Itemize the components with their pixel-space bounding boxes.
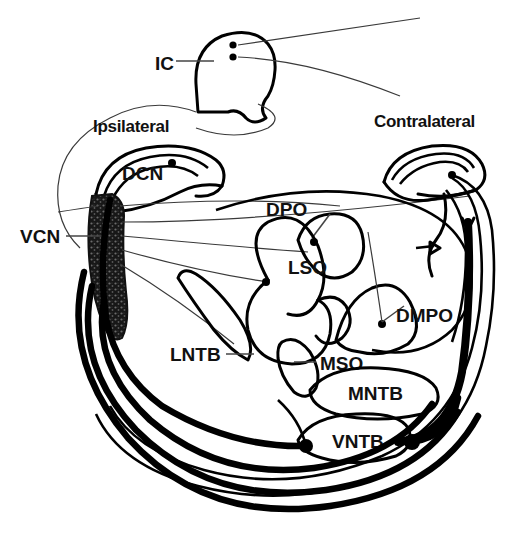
contralateral-arrowhead [430,242,440,254]
lso-terminal-dot [262,278,270,286]
dmpo-afferent-fiber [368,232,382,322]
dmpo-label: DMPO [396,305,453,326]
diagram-figure: DCN VCN DPO LSO DMPO LNTB [0,0,524,533]
ic-terminal-dot-1 [229,41,236,48]
vntb-afferent-medium [278,400,306,446]
ic-afferent-fiber-2 [238,57,400,96]
dcn-label: DCN [122,163,163,184]
vcn-label: VCN [20,226,60,247]
lso-label: LSO [288,257,327,278]
contralateral-label: Contralateral [374,112,475,131]
ic-structure [196,32,275,122]
vcn-efferent-3 [122,236,308,252]
vcn-efferent-4 [122,250,268,282]
mntb-label: MNTB [348,383,403,404]
dcn-terminal-dot [168,159,176,167]
ipsilateral-label: Ipsilateral [93,117,169,136]
lntb-label: LNTB [170,344,221,365]
brainstem-circuit-svg: DCN VCN DPO LSO DMPO LNTB [0,0,524,533]
ic-label: IC [155,53,174,74]
ic-terminal-dot-2 [229,53,236,60]
ic-afferent-fiber-1 [238,18,420,45]
